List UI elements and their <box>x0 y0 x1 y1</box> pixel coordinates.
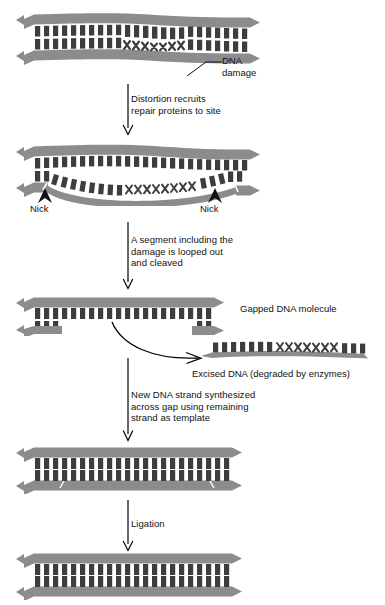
stage-repaired-dna <box>14 552 249 600</box>
excised-normal-bases <box>213 342 272 353</box>
excised-dna-label: Excised DNA (degraded by enzymes) <box>192 368 385 380</box>
nick-left-marker <box>36 188 54 204</box>
base-pair-rungs-right <box>188 26 247 52</box>
stage-excised-fragment <box>198 340 373 368</box>
dna-damage-label: DNA damage <box>222 55 302 78</box>
step-caption-2: A segment including the damage is looped… <box>131 234 296 269</box>
base-pair-rungs-left <box>35 25 121 50</box>
lesion-x-marks <box>124 41 184 51</box>
nick-right-label: Nick <box>200 203 218 214</box>
stage-resynthesized-dna <box>14 446 249 494</box>
step-caption-3: New DNA strand synthesized across gap us… <box>131 389 303 424</box>
gapped-top-bases <box>35 308 211 319</box>
step-caption-4: Ligation <box>131 518 251 530</box>
nick-left-label: Nick <box>30 203 48 214</box>
gapped-dna-label: Gapped DNA molecule <box>240 303 380 315</box>
looped-segment-lesions <box>126 182 195 193</box>
damaged-base-rungs <box>125 25 184 39</box>
step-caption-1: Distortion recruits repair proteins to s… <box>131 93 291 116</box>
nucleotide-excision-repair-diagram: DNA damage Distortion recruits repair pr… <box>0 0 385 605</box>
excised-lesion-marks <box>277 343 337 352</box>
excised-normal-bases-right <box>342 343 365 353</box>
dna-damage-leader-line <box>186 56 226 78</box>
repaired-base-pairs <box>35 564 229 587</box>
resynthesized-base-pairs <box>35 458 229 481</box>
nick-right-marker <box>206 188 224 204</box>
